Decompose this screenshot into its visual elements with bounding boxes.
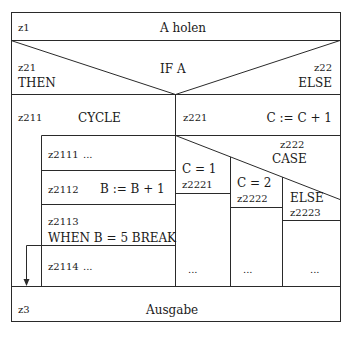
cycle-text: CYCLE (78, 112, 121, 124)
then-label: THEN (18, 77, 56, 89)
loop-stmt-2-id: z2112 (48, 185, 79, 195)
if-condition: IF A (160, 63, 186, 75)
case-branch-3-id: z2223 (290, 208, 321, 218)
block-id-z1: z1 (18, 23, 30, 33)
loop-stmt-1-text: ... (83, 150, 93, 160)
assign-c-id: z221 (183, 113, 207, 123)
case-branch-2-body: ... (243, 265, 253, 275)
case-branch-1-id: z2221 (182, 180, 213, 190)
structogram-lines (0, 0, 350, 339)
break-arrow (27, 246, 42, 283)
arrow-head-icon (24, 279, 30, 286)
cycle-id: z211 (18, 113, 42, 123)
assign-c-text: C := C + 1 (267, 112, 332, 124)
block-z1-text: A holen (160, 22, 206, 34)
case-id: z222 (280, 140, 304, 150)
case-branch-3-body: ... (310, 265, 320, 275)
case-branch-2-id: z2222 (237, 194, 268, 204)
else-id: z22 (314, 63, 332, 73)
case-branch-2-label: C = 2 (237, 177, 272, 189)
else-label: ELSE (298, 77, 332, 89)
loop-stmt-4-text: ... (83, 262, 93, 272)
case-text: CASE (272, 153, 307, 165)
loop-stmt-4-id: z2114 (48, 262, 79, 272)
block-id-z3: z3 (18, 305, 30, 315)
loop-stmt-2-text: B := B + 1 (100, 183, 165, 195)
loop-stmt-3-text: WHEN B = 5 BREAK (48, 232, 176, 244)
loop-stmt-3-id: z2113 (48, 217, 79, 227)
block-z3-text: Ausgabe (146, 304, 198, 316)
case-branch-1-body: ... (188, 265, 198, 275)
case-branch-1-label: C = 1 (182, 163, 217, 175)
case-branch-3-label: ELSE (290, 192, 324, 204)
then-id: z21 (18, 63, 36, 73)
loop-stmt-1-id: z2111 (48, 150, 79, 160)
